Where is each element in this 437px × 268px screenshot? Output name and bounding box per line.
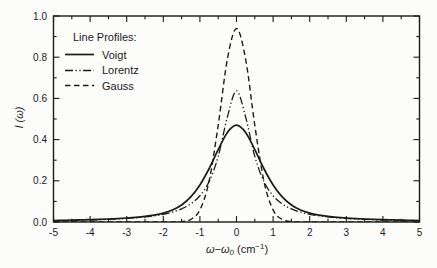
- legend: Line Profiles: Voigt Lorentz Gauss: [64, 31, 139, 92]
- y-tick-label: 1.0: [33, 11, 47, 22]
- x-tick-label: 5: [417, 227, 423, 238]
- y-tick-label: 0.4: [33, 134, 47, 145]
- legend-label-gauss: Gauss: [102, 80, 134, 92]
- voigt-curve: [54, 125, 420, 220]
- y-tick-label: 0.0: [33, 217, 47, 228]
- y-tick-label: 0.6: [33, 93, 47, 104]
- x-tick-label: -4: [86, 227, 95, 238]
- legend-item-voigt: Voigt: [64, 48, 139, 61]
- x-tick-label: -2: [159, 227, 168, 238]
- x-axis-label: ω−ω0 (cm−1): [167, 242, 307, 257]
- lorentz-line-sample-icon: [64, 65, 95, 76]
- legend-title: Line Profiles:: [73, 31, 139, 43]
- x-tick-label: -5: [49, 227, 58, 238]
- x-tick-label: 2: [307, 227, 313, 238]
- voigt-line-sample-icon: [64, 49, 95, 60]
- legend-label-voigt: Voigt: [102, 49, 126, 61]
- x-tick-label: -3: [122, 227, 131, 238]
- legend-item-gauss: Gauss: [64, 79, 139, 92]
- x-tick-label: 3: [344, 227, 350, 238]
- y-axis-label: I (ω): [13, 88, 26, 148]
- legend-item-lorentz: Lorentz: [64, 64, 139, 77]
- x-axis-label-close: ): [264, 243, 268, 255]
- x-axis-label-unit: (cm: [234, 243, 255, 255]
- x-tick-label: 4: [380, 227, 386, 238]
- x-tick-label: -1: [195, 227, 204, 238]
- x-tick-label: 0: [234, 227, 240, 238]
- y-tick-label: 0.8: [33, 52, 47, 63]
- gauss-line-sample-icon: [64, 80, 95, 91]
- lorentz-curve: [54, 91, 420, 221]
- line-profiles-figure: -5-4-3-2-10123450.00.20.40.60.81.0 I (ω)…: [0, 0, 437, 268]
- y-axis-label-symbol: I: [13, 125, 25, 128]
- y-axis-label-arg: (ω): [13, 107, 25, 126]
- legend-label-lorentz: Lorentz: [102, 64, 139, 76]
- y-tick-label: 0.2: [33, 175, 47, 186]
- x-axis-label-symbol: ω−ω: [206, 243, 230, 255]
- x-tick-label: 1: [270, 227, 276, 238]
